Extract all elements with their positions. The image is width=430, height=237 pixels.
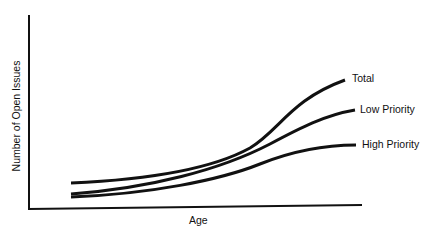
x-axis bbox=[28, 205, 362, 209]
legend-total: Total bbox=[352, 72, 374, 84]
x-axis-label: Age bbox=[189, 214, 208, 226]
legend-low-priority: Low Priority bbox=[360, 103, 415, 115]
legend-high-priority: High Priority bbox=[362, 138, 419, 150]
y-axis-label: Number of Open Issues bbox=[10, 56, 22, 176]
chart-canvas bbox=[0, 0, 430, 237]
